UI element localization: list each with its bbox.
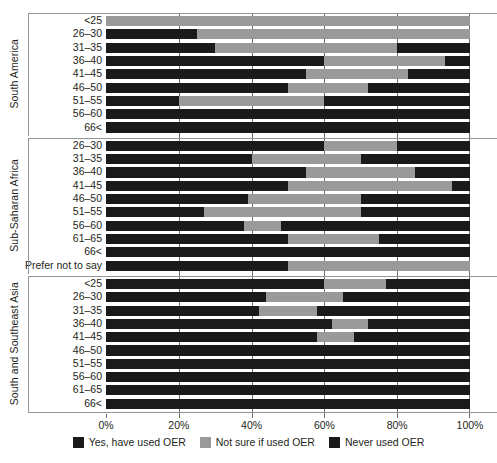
table-row bbox=[106, 247, 470, 257]
table-row bbox=[106, 29, 470, 39]
category-label: 41–45 bbox=[73, 331, 102, 342]
category-label: 51–55 bbox=[73, 206, 102, 217]
category-label: 41–45 bbox=[73, 180, 102, 191]
bar-segment-yes bbox=[106, 292, 266, 302]
oer-usage-stacked-bar-chart: <2526–3031–3536–4041–4546–5051–5556–6066… bbox=[0, 0, 497, 463]
bar-segment-yes bbox=[106, 319, 332, 329]
bar-segment-yes bbox=[106, 306, 259, 316]
table-row bbox=[106, 279, 470, 289]
bar-segment-never bbox=[397, 43, 470, 53]
table-row bbox=[106, 122, 470, 132]
table-row bbox=[106, 194, 470, 204]
group-axis-rule bbox=[28, 138, 29, 274]
category-label: 66< bbox=[84, 122, 102, 133]
legend-item[interactable]: Never used OER bbox=[329, 436, 424, 448]
bar-segment-yes bbox=[106, 154, 252, 164]
category-label: 26–30 bbox=[73, 140, 102, 151]
bar-segment-never bbox=[106, 122, 470, 132]
group-label-text: South and Southeast Asia bbox=[8, 282, 20, 405]
table-row bbox=[106, 319, 470, 329]
bar-segment-yes bbox=[106, 234, 288, 244]
category-label: 66< bbox=[84, 246, 102, 257]
x-tick bbox=[469, 414, 470, 418]
category-label: 36–40 bbox=[73, 166, 102, 177]
bar-segment-not-sure bbox=[288, 234, 379, 244]
category-label: 26–30 bbox=[73, 291, 102, 302]
table-row bbox=[106, 207, 470, 217]
bar-segment-yes bbox=[106, 279, 324, 289]
bar-segment-never bbox=[368, 83, 470, 93]
table-row bbox=[106, 385, 470, 395]
bar-segment-never bbox=[361, 207, 470, 217]
bar-segment-not-sure bbox=[106, 16, 470, 26]
chart-legend: Yes, have used OERNot sure if used OERNe… bbox=[0, 436, 497, 448]
group-label-text: Sub-Saharan Africa bbox=[8, 159, 20, 252]
bar-segment-never bbox=[372, 359, 470, 369]
table-row bbox=[106, 96, 470, 106]
category-label: 61–65 bbox=[73, 384, 102, 395]
legend-label: Yes, have used OER bbox=[89, 436, 186, 448]
category-label: 36–40 bbox=[73, 318, 102, 329]
legend-label: Never used OER bbox=[345, 436, 424, 448]
category-label: 36–40 bbox=[73, 55, 102, 66]
bar-segment-not-sure bbox=[204, 207, 361, 217]
table-row bbox=[106, 399, 470, 409]
category-label-column: <2526–3031–3536–4041–4546–5051–5556–6066… bbox=[0, 14, 106, 414]
group-label-text: South America bbox=[8, 39, 20, 109]
bar-segment-never bbox=[445, 345, 470, 355]
x-tick-label: 60% bbox=[314, 419, 335, 431]
bar-segment-yes bbox=[106, 261, 288, 271]
category-label: 46–50 bbox=[73, 82, 102, 93]
group-label-sub-saharan-africa: Sub-Saharan Africa bbox=[0, 141, 28, 271]
group-axis-rule bbox=[28, 13, 29, 136]
table-row bbox=[106, 359, 470, 369]
table-row bbox=[106, 56, 470, 66]
table-row bbox=[106, 181, 470, 191]
table-row bbox=[106, 261, 470, 271]
legend-item[interactable]: Yes, have used OER bbox=[73, 436, 186, 448]
group-separator bbox=[28, 412, 497, 413]
x-tick bbox=[252, 414, 253, 418]
bar-segment-not-sure bbox=[252, 154, 361, 164]
legend-item[interactable]: Not sure if used OER bbox=[200, 436, 315, 448]
x-tick-label: 0% bbox=[98, 419, 113, 431]
bar-segment-never bbox=[368, 319, 470, 329]
table-row bbox=[106, 69, 470, 79]
group-separator bbox=[28, 13, 497, 14]
bar-segment-not-sure bbox=[288, 261, 470, 271]
legend-label: Not sure if used OER bbox=[216, 436, 315, 448]
table-row bbox=[106, 372, 470, 382]
category-label: <25 bbox=[84, 15, 102, 26]
category-label: 31–35 bbox=[73, 305, 102, 316]
category-label: 56–60 bbox=[73, 371, 102, 382]
group-axis-rule bbox=[28, 276, 29, 412]
bar-segment-yes bbox=[106, 29, 197, 39]
bar-segment-yes bbox=[106, 43, 215, 53]
bar-segment-yes bbox=[106, 372, 470, 382]
bar-segment-not-sure bbox=[259, 306, 317, 316]
bar-segment-not-sure bbox=[288, 181, 452, 191]
category-label: 46–50 bbox=[73, 193, 102, 204]
table-row bbox=[106, 43, 470, 53]
table-row bbox=[106, 141, 470, 151]
bar-segment-never bbox=[288, 247, 470, 257]
table-row bbox=[106, 16, 470, 26]
bar-segment-not-sure bbox=[317, 332, 353, 342]
table-row bbox=[106, 345, 470, 355]
category-label: 61–65 bbox=[73, 233, 102, 244]
bar-segment-yes bbox=[106, 221, 244, 231]
group-separator bbox=[28, 276, 497, 277]
bar-segment-yes bbox=[106, 385, 470, 395]
category-label: 56–60 bbox=[73, 108, 102, 119]
bar-segment-never bbox=[452, 181, 470, 191]
table-row bbox=[106, 332, 470, 342]
bar-segment-not-sure bbox=[332, 319, 368, 329]
table-row bbox=[106, 306, 470, 316]
bar-segment-yes bbox=[106, 96, 179, 106]
category-label: 41–45 bbox=[73, 68, 102, 79]
table-row bbox=[106, 292, 470, 302]
x-axis: 0%20%40%60%80%100% bbox=[106, 414, 470, 432]
bar-segment-not-sure bbox=[324, 56, 444, 66]
category-label: 31–35 bbox=[73, 42, 102, 53]
x-tick-label: 40% bbox=[241, 419, 262, 431]
